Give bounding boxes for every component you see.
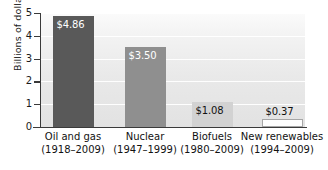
y-axis-tick bbox=[34, 104, 41, 105]
y-axis-tick bbox=[34, 127, 41, 128]
category-year-range: (1994–2009) bbox=[235, 144, 328, 157]
y-axis-tick bbox=[34, 36, 41, 37]
plot-area: $4.86$3.50$1.08$0.37 bbox=[41, 13, 305, 127]
y-axis-tick-label: 3 bbox=[6, 54, 32, 64]
bar-value-label: $1.08 bbox=[196, 106, 224, 116]
gridline bbox=[41, 13, 305, 14]
y-axis-line bbox=[40, 13, 41, 128]
bar-value-label: $4.86 bbox=[57, 20, 85, 30]
y-axis-tick bbox=[34, 13, 41, 14]
y-axis-tick bbox=[34, 59, 41, 60]
x-axis-line bbox=[33, 127, 307, 128]
y-axis-tick-label: 1 bbox=[6, 99, 32, 109]
x-axis-category-label: New renewables(1994–2009) bbox=[235, 131, 328, 156]
y-axis-tick-label: 4 bbox=[6, 31, 32, 41]
bar-value-label: $0.37 bbox=[266, 107, 294, 117]
y-axis-tick bbox=[34, 81, 41, 82]
bar[interactable] bbox=[53, 16, 94, 127]
bar[interactable] bbox=[262, 119, 303, 127]
y-axis-tick-label: 2 bbox=[6, 76, 32, 86]
category-name: New renewables bbox=[235, 131, 328, 144]
y-axis-tick-label: 5 bbox=[6, 8, 32, 18]
bar-value-label: $3.50 bbox=[129, 51, 157, 61]
